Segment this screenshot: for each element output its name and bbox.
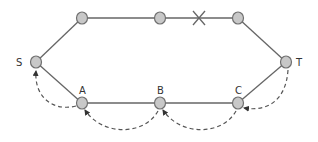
dashed-arrow-b-to-a xyxy=(85,110,158,130)
node-upper-2 xyxy=(155,12,166,24)
dashed-arrow-a-to-s xyxy=(36,71,76,107)
node-upper-1 xyxy=(77,12,88,24)
label-b: B xyxy=(157,85,164,96)
node-c xyxy=(233,97,244,109)
label-s: S xyxy=(16,57,22,68)
label-t: T xyxy=(295,57,303,68)
network-diagram: S T A B C xyxy=(0,0,318,142)
node-b xyxy=(155,97,166,109)
dashed-arrow-c-to-b xyxy=(163,110,236,130)
node-s xyxy=(31,56,42,68)
label-c: C xyxy=(235,85,242,96)
node-a xyxy=(77,97,88,109)
node-upper-3 xyxy=(233,12,244,24)
node-t xyxy=(281,56,292,68)
edge-u3-t xyxy=(238,18,286,62)
label-a: A xyxy=(79,85,86,96)
edge-s-u1 xyxy=(36,18,82,62)
dashed-arrow-t-to-c xyxy=(244,70,288,109)
